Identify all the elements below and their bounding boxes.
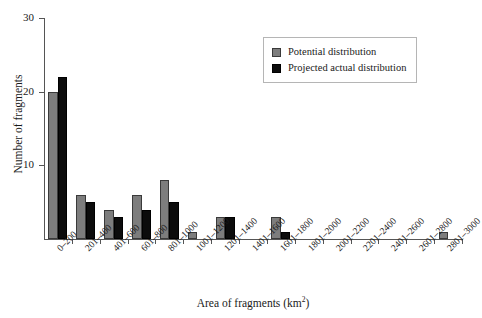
x-axis-title-base: Area of fragments (km xyxy=(197,297,302,309)
legend-label: Projected actual distribution xyxy=(288,62,406,74)
legend-item[interactable]: Potential distribution xyxy=(272,44,406,60)
legend-swatch-potential-icon xyxy=(272,48,281,57)
y-tick-label: 30 xyxy=(0,12,34,23)
bar-potential xyxy=(48,92,58,239)
x-axis-title: Area of fragments (km2) xyxy=(44,295,462,309)
bar-potential xyxy=(76,195,86,239)
y-tick-label: 10 xyxy=(0,159,34,170)
legend-label: Potential distribution xyxy=(288,46,376,58)
x-axis-title-tail: ) xyxy=(305,297,309,309)
y-tick-label: 20 xyxy=(0,86,34,97)
y-axis-title: Number of fragments xyxy=(12,44,24,204)
legend-item[interactable]: Projected actual distribution xyxy=(272,60,406,76)
legend: Potential distributionProjected actual d… xyxy=(263,37,417,83)
bar-projected xyxy=(58,77,68,239)
legend-swatch-projected-icon xyxy=(272,64,281,73)
